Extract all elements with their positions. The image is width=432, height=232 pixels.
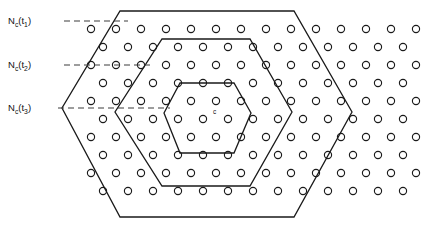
lattice-dot bbox=[362, 97, 369, 104]
lattice-dot bbox=[87, 97, 94, 104]
lattice-dot bbox=[149, 151, 156, 158]
lattice-dot bbox=[237, 61, 244, 68]
lattice-dot bbox=[412, 61, 419, 68]
lattice-dot bbox=[137, 97, 144, 104]
lattice-dot bbox=[99, 115, 106, 122]
lattice-dot bbox=[374, 79, 381, 86]
lattice-dot bbox=[299, 115, 306, 122]
center-marker-group: c bbox=[213, 108, 217, 115]
lattice-dot bbox=[112, 97, 119, 104]
lattice-dot bbox=[287, 25, 294, 32]
lattice-dot bbox=[287, 61, 294, 68]
lattice-dot bbox=[149, 115, 156, 122]
lattice-dot bbox=[199, 187, 206, 194]
tier-label-group: Nc(t1)Nc(t2)Nc(t3) bbox=[8, 15, 31, 115]
lattice-dot bbox=[124, 187, 131, 194]
lattice-dot bbox=[387, 61, 394, 68]
lattice-dot bbox=[262, 169, 269, 176]
lattice-dot bbox=[349, 43, 356, 50]
lattice-dot bbox=[324, 43, 331, 50]
lattice-dot bbox=[387, 133, 394, 140]
lattice-dot bbox=[312, 25, 319, 32]
lattice-dot bbox=[187, 61, 194, 68]
lattice-dot bbox=[399, 187, 406, 194]
lattice-dot bbox=[362, 169, 369, 176]
lattice-dot bbox=[337, 25, 344, 32]
lattice-dot bbox=[362, 61, 369, 68]
lattice-dot bbox=[212, 61, 219, 68]
lattice-dot bbox=[224, 187, 231, 194]
figure-canvas: Nc(t1)Nc(t2)Nc(t3) c bbox=[0, 0, 432, 232]
lattice-dot bbox=[249, 151, 256, 158]
lattice-dot bbox=[299, 43, 306, 50]
lattice-dot bbox=[212, 97, 219, 104]
lattice-dot bbox=[387, 25, 394, 32]
lattice-dot bbox=[174, 187, 181, 194]
lattice-dot bbox=[374, 187, 381, 194]
lattice-dot bbox=[162, 61, 169, 68]
lattice-dot bbox=[199, 43, 206, 50]
lattice-dot bbox=[162, 133, 169, 140]
lattice-dot bbox=[274, 115, 281, 122]
lattice-dot bbox=[137, 25, 144, 32]
lattice-dot bbox=[174, 43, 181, 50]
lattice-dot bbox=[399, 79, 406, 86]
lattice-dot bbox=[249, 115, 256, 122]
lattice-dot bbox=[187, 169, 194, 176]
lattice-dot bbox=[412, 169, 419, 176]
lattice-dot-group bbox=[87, 25, 419, 194]
lattice-dot bbox=[237, 169, 244, 176]
lattice-dot bbox=[112, 133, 119, 140]
lattice-dot bbox=[399, 43, 406, 50]
tier1-label: Nc(t1) bbox=[8, 15, 31, 28]
lattice-dot bbox=[87, 169, 94, 176]
lattice-dot bbox=[287, 133, 294, 140]
lattice-dot bbox=[87, 25, 94, 32]
lattice-dot bbox=[224, 43, 231, 50]
lattice-dot bbox=[362, 133, 369, 140]
lattice-dot bbox=[287, 97, 294, 104]
lattice-dot bbox=[312, 97, 319, 104]
lattice-dot bbox=[349, 151, 356, 158]
lattice-dot bbox=[374, 43, 381, 50]
lattice-dot bbox=[99, 151, 106, 158]
lattice-dot bbox=[212, 169, 219, 176]
lattice-dot bbox=[337, 61, 344, 68]
lattice-dot bbox=[299, 187, 306, 194]
lattice-dot bbox=[412, 133, 419, 140]
lattice-dot bbox=[324, 79, 331, 86]
lattice-dot bbox=[162, 25, 169, 32]
lattice-dot bbox=[399, 115, 406, 122]
lattice-dot bbox=[124, 79, 131, 86]
lattice-dot bbox=[112, 25, 119, 32]
lattice-dot bbox=[287, 169, 294, 176]
lattice-dot bbox=[374, 151, 381, 158]
lattice-dot bbox=[262, 133, 269, 140]
center-cell-superscript: c bbox=[213, 108, 217, 115]
lattice-dot bbox=[349, 79, 356, 86]
lattice-dot bbox=[324, 187, 331, 194]
lattice-dot bbox=[187, 97, 194, 104]
lattice-dot bbox=[349, 187, 356, 194]
lattice-dot bbox=[412, 97, 419, 104]
lattice-dot bbox=[399, 151, 406, 158]
leader-line-group bbox=[58, 21, 170, 108]
lattice-dot bbox=[124, 151, 131, 158]
lattice-dot bbox=[312, 61, 319, 68]
lattice-dot bbox=[199, 115, 206, 122]
lattice-dot bbox=[237, 25, 244, 32]
lattice-dot bbox=[324, 115, 331, 122]
lattice-dot bbox=[124, 43, 131, 50]
lattice-dot bbox=[387, 169, 394, 176]
lattice-dot bbox=[274, 187, 281, 194]
lattice-dot bbox=[87, 133, 94, 140]
hexagonal-cluster-diagram: Nc(t1)Nc(t2)Nc(t3) c bbox=[0, 0, 432, 232]
lattice-dot bbox=[349, 115, 356, 122]
lattice-dot bbox=[149, 187, 156, 194]
lattice-dot bbox=[274, 151, 281, 158]
lattice-dot bbox=[124, 115, 131, 122]
lattice-dot bbox=[149, 79, 156, 86]
lattice-dot bbox=[362, 25, 369, 32]
lattice-dot bbox=[162, 169, 169, 176]
lattice-dot bbox=[299, 79, 306, 86]
